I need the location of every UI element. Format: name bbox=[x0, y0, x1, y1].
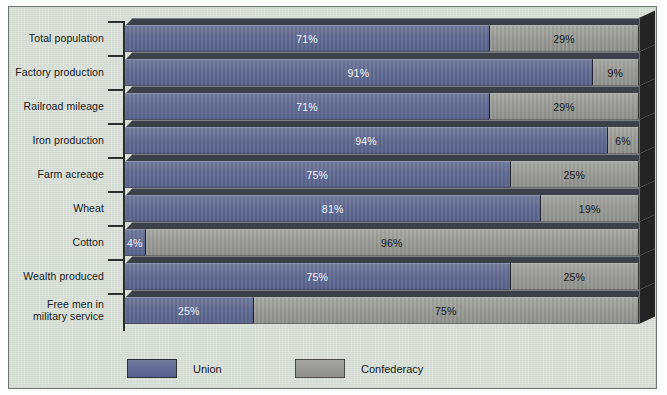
axis-tick bbox=[108, 259, 125, 261]
bar-segment-union[interactable]: 25% bbox=[125, 297, 254, 324]
row-label: Farm acreage bbox=[8, 168, 104, 180]
plot-area: Total population71%29%Factory production… bbox=[9, 7, 656, 347]
stacked-bar[interactable]: 94%6% bbox=[125, 127, 639, 154]
axis-tick bbox=[108, 123, 125, 125]
bar-value-union: 94% bbox=[355, 135, 377, 147]
chart-frame: Total population71%29%Factory production… bbox=[8, 6, 657, 389]
bar-segment-confederacy[interactable]: 9% bbox=[593, 59, 639, 86]
axis-tick bbox=[108, 157, 125, 159]
bar-value-union: 71% bbox=[296, 33, 318, 45]
bar-segment-union[interactable]: 4% bbox=[125, 229, 146, 256]
axis-tick bbox=[108, 21, 125, 23]
bar-segment-union[interactable]: 75% bbox=[125, 263, 511, 290]
bar-value-confederacy: 29% bbox=[553, 101, 575, 113]
row-label: Wheat bbox=[8, 202, 104, 214]
stacked-bar[interactable]: 71%29% bbox=[125, 25, 639, 52]
axis-tick bbox=[108, 225, 125, 227]
bar-segment-union[interactable]: 75% bbox=[125, 161, 511, 188]
bar-value-confederacy: 25% bbox=[563, 271, 585, 283]
bar-value-union: 81% bbox=[322, 203, 344, 215]
row-label: Railroad mileage bbox=[8, 100, 104, 112]
stacked-bar[interactable]: 4%96% bbox=[125, 229, 639, 256]
bar-value-confederacy: 6% bbox=[615, 135, 631, 147]
stacked-bar[interactable]: 91%9% bbox=[125, 59, 639, 86]
bar-segment-union[interactable]: 71% bbox=[125, 25, 490, 52]
row-label: Factory production bbox=[8, 66, 104, 78]
row-label: Cotton bbox=[8, 236, 104, 248]
row-label: Total population bbox=[8, 32, 104, 44]
axis-tick bbox=[108, 55, 125, 57]
stacked-bar[interactable]: 25%75% bbox=[125, 297, 639, 324]
bar-value-union: 71% bbox=[296, 101, 318, 113]
stacked-bar[interactable]: 75%25% bbox=[125, 161, 639, 188]
bar-value-confederacy: 25% bbox=[563, 169, 585, 181]
legend-label-confederacy: Confederacy bbox=[361, 363, 423, 375]
legend-swatch-confederacy bbox=[295, 359, 345, 378]
bar-value-confederacy: 96% bbox=[381, 237, 403, 249]
bar-segment-confederacy[interactable]: 25% bbox=[511, 161, 640, 188]
bar-segment-confederacy[interactable]: 29% bbox=[490, 25, 639, 52]
axis-tick bbox=[108, 89, 125, 91]
bar-segment-confederacy[interactable]: 96% bbox=[146, 229, 639, 256]
legend-swatch-union bbox=[127, 359, 177, 378]
bar-value-union: 75% bbox=[306, 169, 328, 181]
bar-segment-confederacy[interactable]: 19% bbox=[541, 195, 639, 222]
bar-segment-confederacy[interactable]: 75% bbox=[254, 297, 640, 324]
bar-side-face bbox=[639, 283, 655, 324]
bar-value-union: 91% bbox=[348, 67, 370, 79]
stacked-bar[interactable]: 71%29% bbox=[125, 93, 639, 120]
axis-tick bbox=[108, 191, 125, 193]
chart-row: Free men in military service25%75% bbox=[9, 297, 656, 331]
bar-value-union: 75% bbox=[306, 271, 328, 283]
row-label: Iron production bbox=[8, 134, 104, 146]
bar-segment-union[interactable]: 91% bbox=[125, 59, 593, 86]
chart-legend: Union Confederacy bbox=[9, 359, 656, 387]
row-label: Free men in military service bbox=[8, 298, 104, 322]
stacked-bar[interactable]: 75%25% bbox=[125, 263, 639, 290]
legend-item-union[interactable]: Union bbox=[127, 359, 222, 378]
bar-value-confederacy: 19% bbox=[579, 203, 601, 215]
bar-segment-union[interactable]: 81% bbox=[125, 195, 541, 222]
bar-value-confederacy: 9% bbox=[608, 67, 624, 79]
axis-tick bbox=[108, 293, 125, 295]
bar-value-union: 4% bbox=[127, 237, 143, 249]
bar-value-confederacy: 29% bbox=[553, 33, 575, 45]
legend-item-confederacy[interactable]: Confederacy bbox=[295, 359, 423, 378]
legend-label-union: Union bbox=[193, 363, 222, 375]
row-label: Wealth produced bbox=[8, 270, 104, 282]
bar-segment-confederacy[interactable]: 25% bbox=[511, 263, 640, 290]
stacked-bar[interactable]: 81%19% bbox=[125, 195, 639, 222]
chart-page: Total population71%29%Factory production… bbox=[0, 0, 667, 395]
bar-segment-confederacy[interactable]: 29% bbox=[490, 93, 639, 120]
bar-segment-union[interactable]: 71% bbox=[125, 93, 490, 120]
bar-segment-union[interactable]: 94% bbox=[125, 127, 608, 154]
bar-value-confederacy: 75% bbox=[435, 305, 457, 317]
bar-value-union: 25% bbox=[178, 305, 200, 317]
bar-segment-confederacy[interactable]: 6% bbox=[608, 127, 639, 154]
